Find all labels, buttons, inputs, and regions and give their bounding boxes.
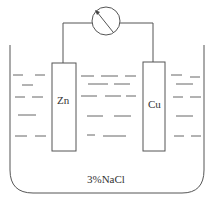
galvanic-cell-diagram: Zn Cu 3%NaCl <box>0 0 212 204</box>
wire-left <box>63 23 92 63</box>
electrolyte-dashes-right <box>171 75 201 136</box>
zn-label: Zn <box>57 94 70 106</box>
zn-electrode <box>52 63 76 151</box>
electrolyte-dashes-left <box>13 75 46 136</box>
wire-right <box>120 23 153 62</box>
cu-label: Cu <box>148 98 161 110</box>
electrolyte-dashes-middle <box>81 76 136 136</box>
galvanometer-icon <box>92 7 120 35</box>
electrolyte-label: 3%NaCl <box>87 173 125 185</box>
beaker <box>10 45 204 193</box>
